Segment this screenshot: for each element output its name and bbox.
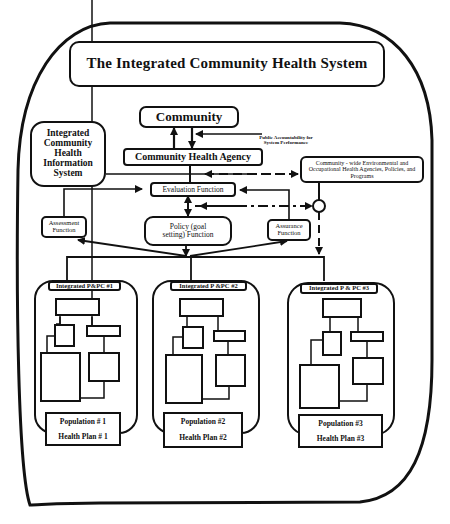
plan-2-health-plan: Health Plan #2 [179,434,227,442]
environmental-agencies-box: Community - wide Environmental and Occup… [300,156,424,183]
plan-3-health-plan: Health Plan #3 [317,435,365,443]
plan-1-org-block [54,324,75,347]
plan-3-population-box: Population #3 Health Plan #3 [298,414,383,448]
community-box: Community [139,106,239,128]
plan-1-health-plan: Health Plan # 1 [58,433,107,441]
plan-3-header: Integrated P & PC #3 [300,283,378,294]
plan-1-population: Population # 1 [60,418,106,426]
plan-2-org-block [179,298,224,317]
plan-2-org-block [215,354,246,387]
information-system-box: Integrated Community Health Information … [30,121,106,187]
plan-1-org-block [40,352,81,402]
plan-2-population-box: Population #2 Health Plan #2 [163,412,243,448]
plan-2-org-block [213,330,246,342]
plan-2-population: Population #2 [181,418,225,426]
plan-1-header: Integrated P&PC #1 [48,281,121,291]
public-accountability-label: Public Accountability for System Perform… [256,125,316,155]
plan-1-org-block [86,325,121,337]
plan-3-org-block [322,298,362,318]
assessment-function-box: Assessment Function [41,216,87,238]
evaluation-function-box: Evaluation Function [150,182,236,197]
policy-function-box: Policy (goal setting) Function [144,216,232,246]
plan-3-org-block [322,331,342,356]
plan-3-org-block [352,357,384,385]
plan-1-population-box: Population # 1 Health Plan # 1 [45,412,121,446]
diagram-title: The Integrated Community Health System [69,41,385,87]
plan-1-org-block [88,352,120,382]
plan-2-org-block [182,326,204,349]
plan-2-header: Integrated P &PC #2 [170,281,247,291]
plan-3-org-block [299,364,340,409]
community-health-agency-box: Community Health Agency [123,148,263,166]
plan-3-org-block [350,331,384,342]
junction-node [313,200,325,212]
assurance-function-box: Assurance Function [267,219,311,241]
plan-1-org-block [55,298,100,316]
plan-2-org-block [165,354,203,404]
integrated-community-health-system-diagram: The Integrated Community Health System C… [0,0,450,524]
plan-3-population: Population #3 [318,420,362,428]
